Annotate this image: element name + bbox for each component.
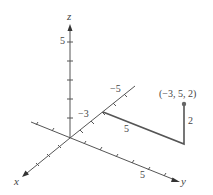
y-tick-five-label: 5 <box>140 170 145 180</box>
z-axis <box>67 30 73 138</box>
x-axis-label: x <box>14 176 19 187</box>
path-segment-five-label: 5 <box>124 124 129 134</box>
x-axis <box>27 138 70 173</box>
x-axis-arrow-icon <box>22 171 29 178</box>
point-marker-icon <box>182 102 186 106</box>
z-axis-label: z <box>67 11 71 22</box>
y-axis <box>31 122 175 180</box>
z-axis-arrow-icon <box>68 24 73 31</box>
z-tick-five-label: 5 <box>60 36 65 46</box>
point-coordinates-label: (−3, 5, 2) <box>159 89 196 99</box>
neg-x-tick-five-label: −5 <box>110 84 121 94</box>
path-to-point <box>103 104 184 144</box>
neg-x-tick-three-label: −3 <box>78 109 89 119</box>
y-axis-arrow-icon <box>171 178 180 183</box>
y-axis-label: y <box>181 176 186 187</box>
path-segment-two-label: 2 <box>188 116 193 126</box>
